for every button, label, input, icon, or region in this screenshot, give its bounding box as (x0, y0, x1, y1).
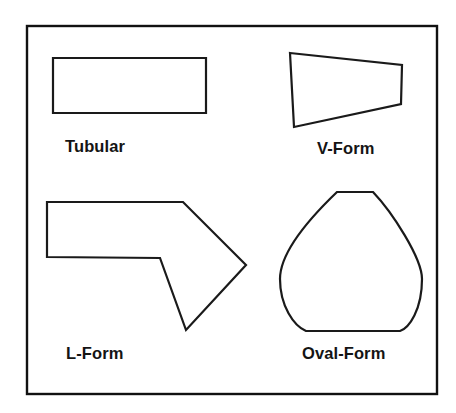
label-l-form: L-Form (66, 344, 123, 362)
shape-v-form (290, 53, 402, 127)
shape-forms-figure: Tubular V-Form L-Form Oval-Form (0, 0, 456, 413)
label-oval-form: Oval-Form (302, 344, 385, 362)
shape-l-form (47, 202, 246, 330)
label-v-form: V-Form (317, 139, 374, 157)
shape-tubular (53, 58, 206, 113)
shape-oval-form (280, 192, 422, 331)
label-tubular: Tubular (65, 137, 125, 155)
